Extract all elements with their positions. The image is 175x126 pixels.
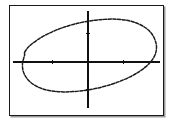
screenshot-root — [0, 0, 175, 126]
ellipse-curve — [22, 19, 156, 92]
graph-canvas[interactable] — [10, 6, 163, 115]
plot-frame[interactable] — [9, 5, 164, 116]
